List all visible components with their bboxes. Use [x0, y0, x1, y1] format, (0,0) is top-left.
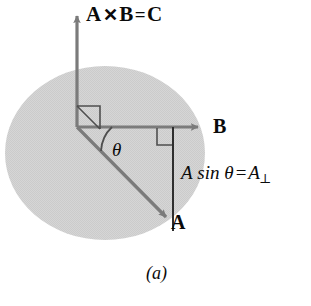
figure-caption: (a) [146, 264, 167, 282]
label-cross-product-equals: = [134, 4, 147, 25]
perpendicular-symbol-icon: ⊥ [259, 171, 271, 186]
label-angle-theta: θ [112, 140, 121, 159]
label-cross-product: A✕B=C [86, 4, 163, 25]
label-vector-b: B [213, 116, 226, 136]
cross-product-operator-icon: ✕ [102, 5, 120, 25]
vector-cross-product-figure: A✕B=C B A θ A sin θ=A⊥ (a) [0, 0, 311, 306]
label-cross-product-b: B [119, 2, 134, 26]
label-vector-a: A [171, 212, 185, 232]
asin-magnitude: A [181, 162, 193, 183]
asin-function: sin [197, 162, 219, 183]
label-perpendicular-component: A sin θ=A⊥ [181, 163, 272, 182]
label-cross-product-c: C [147, 2, 163, 26]
label-cross-product-a: A [86, 2, 102, 26]
asin-equals: = [234, 162, 249, 183]
diagram-canvas [0, 0, 311, 306]
asin-angle: θ [224, 162, 233, 183]
